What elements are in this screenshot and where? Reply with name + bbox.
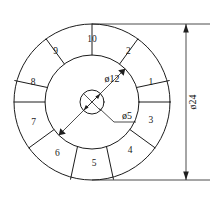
middle-diameter-label: ø12 <box>105 73 120 84</box>
sector-label-4: 4 <box>128 145 133 155</box>
sector-divider-7 <box>29 130 54 148</box>
sector-divider-4 <box>130 130 155 148</box>
outer-diameter-arrow-top <box>183 24 189 33</box>
sector-label-1: 1 <box>149 77 154 87</box>
sector-label-9: 9 <box>53 46 58 56</box>
sector-label-2: 2 <box>126 46 131 56</box>
sector-label-5: 5 <box>92 158 97 168</box>
sector-label-7: 7 <box>31 117 36 127</box>
sector-divider-6 <box>71 147 78 180</box>
hub-diameter-label: ø5 <box>122 110 132 121</box>
sector-label-3: 3 <box>149 115 154 125</box>
sector-divider-5 <box>107 147 114 180</box>
outer-diameter-label: ø24 <box>187 95 198 110</box>
sector-label-8: 8 <box>31 77 36 87</box>
outer-diameter-arrow-bottom <box>183 172 189 181</box>
sector-label-10: 10 <box>87 34 97 44</box>
drawing-svg: 1 2 3 4 5 6 7 8 9 10 ø12 ø5 ø24 <box>0 0 220 204</box>
technical-drawing-canvas: 1 2 3 4 5 6 7 8 9 10 ø12 ø5 ø24 <box>0 0 220 204</box>
sector-label-6: 6 <box>55 148 60 158</box>
